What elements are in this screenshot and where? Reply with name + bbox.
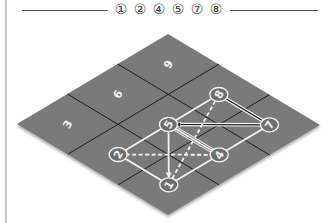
node-7: 7: [260, 118, 278, 132]
isometric-board: 963 875421: [0, 0, 332, 223]
node-2: 2: [109, 147, 127, 161]
node-4: 4: [210, 148, 228, 162]
node-5: 5: [160, 118, 178, 132]
node-8: 8: [210, 88, 228, 102]
node-1: 1: [160, 178, 178, 192]
